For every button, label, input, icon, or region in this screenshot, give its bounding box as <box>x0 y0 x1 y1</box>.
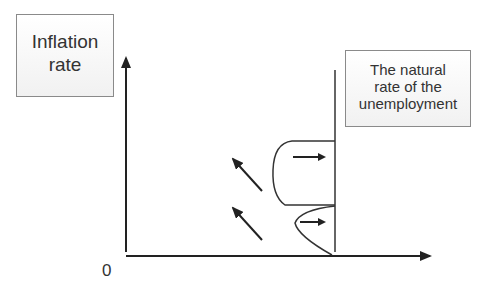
diagram-canvas <box>0 0 486 292</box>
lower-diagonal-arrow <box>233 208 262 240</box>
lower-loop <box>295 206 335 255</box>
upper-loop <box>273 141 335 205</box>
upper-diagonal-arrow <box>233 159 262 191</box>
